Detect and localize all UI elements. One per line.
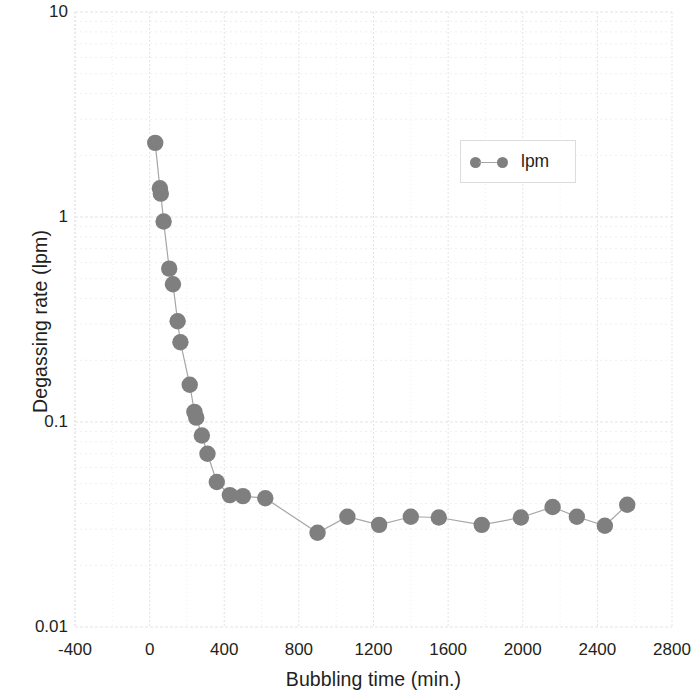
x-tick-label: 2800 bbox=[632, 641, 695, 658]
legend-label: lpm bbox=[521, 151, 549, 172]
x-tick-label: 2400 bbox=[557, 641, 637, 658]
x-tick-label: 800 bbox=[259, 641, 339, 658]
x-tick-label: 0 bbox=[110, 641, 190, 658]
y-tick-label: 1 bbox=[6, 208, 68, 225]
legend-marker-icon bbox=[470, 154, 516, 170]
y-tick-label: 0.1 bbox=[6, 413, 68, 430]
y-tick-label: 0.01 bbox=[6, 618, 68, 635]
legend-entry: lpm bbox=[461, 141, 575, 182]
plot-area bbox=[75, 12, 672, 627]
y-axis-title: Degassing rate (lpm) bbox=[29, 112, 52, 532]
x-tick-label: -400 bbox=[35, 641, 115, 658]
x-tick-label: 400 bbox=[184, 641, 264, 658]
x-tick-label: 2000 bbox=[483, 641, 563, 658]
chart-legend: lpm bbox=[460, 140, 576, 183]
data-series-layer bbox=[75, 12, 672, 627]
x-tick-label: 1200 bbox=[334, 641, 414, 658]
x-tick-label: 1600 bbox=[408, 641, 488, 658]
legend-dot-right-icon bbox=[497, 157, 508, 168]
x-axis-title: Bubbling time (min.) bbox=[75, 668, 672, 691]
y-tick-label: 10 bbox=[6, 3, 68, 20]
